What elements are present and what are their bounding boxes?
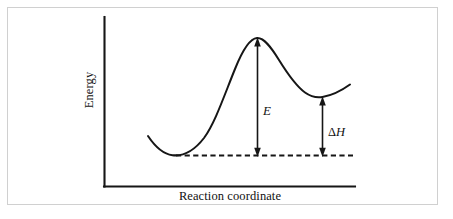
y-axis-label: Energy: [82, 72, 97, 108]
energy-diagram-canvas: [0, 0, 453, 219]
delta-glyph: Δ: [328, 125, 336, 139]
x-axis-label: Reaction coordinate: [179, 189, 281, 204]
enthalpy-symbol: H: [336, 125, 345, 139]
reaction-coordinate-figure: Energy Reaction coordinate E ΔH: [0, 0, 453, 219]
enthalpy-change-label: ΔH: [328, 125, 345, 140]
activation-energy-label: E: [263, 103, 271, 119]
energy-profile-curve: [148, 38, 350, 155]
